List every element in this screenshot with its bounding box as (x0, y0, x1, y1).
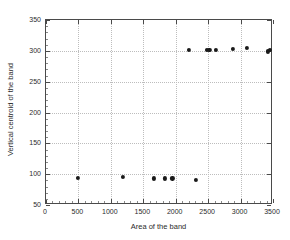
y-minor-tick (46, 119, 48, 120)
y-minor-tick (46, 187, 48, 188)
y-minor-tick (46, 150, 48, 151)
y-tick (46, 174, 50, 175)
y-minor-tick (46, 63, 48, 64)
y-gridline (46, 82, 271, 83)
y-minor-tick (46, 193, 48, 194)
x-minor-tick (260, 201, 261, 203)
y-minor-tick (46, 57, 48, 58)
y-minor-tick (46, 180, 48, 181)
y-tick-right (267, 20, 271, 21)
x-minor-tick (98, 201, 99, 203)
y-minor-tick (46, 45, 48, 46)
x-minor-tick (267, 201, 268, 203)
y-tick (46, 113, 50, 114)
y-tick-label: 250 (21, 76, 41, 85)
x-minor-tick (104, 201, 105, 203)
x-axis-label: Area of the band (45, 222, 272, 231)
y-minor-tick (46, 125, 48, 126)
x-minor-tick (137, 201, 138, 203)
data-point (170, 176, 174, 180)
y-tick-right (267, 205, 271, 206)
x-minor-tick (52, 201, 53, 203)
y-tick-label: 200 (21, 107, 41, 116)
x-gridline (111, 20, 112, 203)
x-tick-top (208, 20, 209, 24)
plot-area (45, 19, 272, 204)
x-minor-tick (65, 201, 66, 203)
x-tick-label: 3500 (264, 207, 280, 216)
y-tick-label: 50 (21, 200, 41, 209)
x-minor-tick (247, 201, 248, 203)
scatter-plot-figure: Vertical centroid of the band Area of th… (0, 0, 290, 240)
x-tick (273, 199, 274, 203)
x-tick-top (273, 20, 274, 24)
x-minor-tick (215, 201, 216, 203)
x-minor-tick (130, 201, 131, 203)
y-minor-tick (46, 100, 48, 101)
y-tick (46, 205, 50, 206)
x-gridline (143, 20, 144, 203)
x-gridline (176, 20, 177, 203)
x-minor-tick (169, 201, 170, 203)
y-tick-label: 100 (21, 169, 41, 178)
x-minor-tick (202, 201, 203, 203)
y-minor-tick (46, 162, 48, 163)
y-minor-tick (46, 131, 48, 132)
x-minor-tick (195, 201, 196, 203)
x-tick-label: 1500 (134, 207, 150, 216)
x-minor-tick (156, 201, 157, 203)
y-minor-tick (46, 199, 48, 200)
x-tick-top (111, 20, 112, 24)
y-tick-right (267, 174, 271, 175)
y-tick (46, 51, 50, 52)
y-tick-right (267, 143, 271, 144)
x-minor-tick (189, 201, 190, 203)
x-tick-label: 2500 (199, 207, 215, 216)
y-minor-tick (46, 168, 48, 169)
y-minor-tick (46, 94, 48, 95)
x-minor-tick (150, 201, 151, 203)
x-minor-tick (72, 201, 73, 203)
x-tick-top (241, 20, 242, 24)
x-minor-tick (117, 201, 118, 203)
y-minor-tick (46, 156, 48, 157)
y-minor-tick (46, 39, 48, 40)
y-minor-tick (46, 69, 48, 70)
y-axis-label-container: Vertical centroid of the band (0, 0, 16, 240)
x-minor-tick (234, 201, 235, 203)
x-minor-tick (91, 201, 92, 203)
data-point (121, 175, 125, 179)
y-tick-label: 150 (21, 138, 41, 147)
data-point (152, 176, 156, 180)
x-tick (241, 199, 242, 203)
x-minor-tick (228, 201, 229, 203)
x-tick (78, 199, 79, 203)
y-tick (46, 82, 50, 83)
x-tick (111, 199, 112, 203)
y-minor-tick (46, 88, 48, 89)
x-minor-tick (124, 201, 125, 203)
x-tick-top (143, 20, 144, 24)
y-tick-right (267, 113, 271, 114)
x-tick-label: 0 (43, 207, 47, 216)
y-minor-tick (46, 32, 48, 33)
x-tick-label: 3000 (232, 207, 248, 216)
x-minor-tick (254, 201, 255, 203)
x-tick-top (176, 20, 177, 24)
y-gridline (46, 51, 271, 52)
data-point (163, 176, 167, 180)
y-gridline (46, 113, 271, 114)
y-minor-tick (46, 76, 48, 77)
x-tick-top (78, 20, 79, 24)
data-point (268, 48, 272, 52)
y-gridline (46, 174, 271, 175)
y-tick (46, 143, 50, 144)
y-minor-tick (46, 106, 48, 107)
data-point (245, 46, 249, 50)
x-tick (143, 199, 144, 203)
x-minor-tick (59, 201, 60, 203)
x-tick-label: 2000 (167, 207, 183, 216)
x-gridline (241, 20, 242, 203)
y-tick-label: 350 (21, 15, 41, 24)
y-tick (46, 20, 50, 21)
